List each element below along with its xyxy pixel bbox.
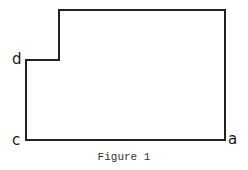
figure-diagram — [0, 0, 248, 170]
vertex-label-d: d — [12, 52, 22, 67]
vertex-label-a: a — [228, 132, 237, 147]
stepped-rectangle-outline — [26, 10, 225, 140]
vertex-label-c: c — [12, 133, 20, 148]
figure-caption: Figure 1 — [0, 151, 248, 163]
